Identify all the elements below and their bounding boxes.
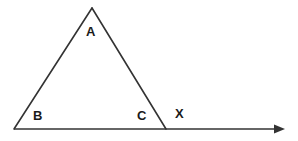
arrowhead-icon xyxy=(274,125,285,134)
figure-canvas xyxy=(0,0,298,141)
vertex-label-b: B xyxy=(33,109,42,122)
vertex-label-x: X xyxy=(175,107,184,120)
segment-ac xyxy=(92,8,166,129)
segment-ab xyxy=(14,8,92,129)
vertex-label-c: C xyxy=(137,109,146,122)
geometry-figure: A B C X xyxy=(0,0,298,141)
vertex-label-a: A xyxy=(86,25,95,38)
